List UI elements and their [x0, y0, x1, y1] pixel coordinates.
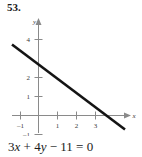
y-tick-label-neg1: –1 [22, 131, 31, 136]
y-tick-label-1: 1 [27, 93, 31, 101]
equation-equals-sign: = [76, 139, 83, 154]
equation-operator-plus: + [24, 139, 31, 154]
x-tick-label-3: 3 [94, 122, 98, 130]
x-axis-arrow-icon [124, 113, 131, 119]
plotted-line [12, 45, 125, 130]
y-axis-arrow-icon [36, 18, 42, 25]
equation-caption: 3x + 4y − 11 = 0 [8, 138, 142, 155]
x-axis-label: x [131, 112, 136, 120]
x-tick-label-1: 1 [56, 122, 60, 130]
equation-term-11: 11 [60, 139, 73, 154]
plot-svg: –1 1 2 3 1 2 4 –1 x y [0, 16, 142, 136]
equation-operator-minus: − [50, 139, 57, 154]
y-tick-label-2: 2 [27, 74, 31, 82]
x-tick-label-neg1: –1 [16, 122, 25, 130]
figure-container: 53. –1 1 2 3 1 [0, 0, 142, 157]
coordinate-plot: –1 1 2 3 1 2 4 –1 x y [0, 16, 142, 136]
equation-rhs-zero: 0 [87, 139, 94, 154]
equation-var-y: y [41, 139, 47, 154]
y-tick-label-4: 4 [27, 36, 31, 44]
x-tick-label-2: 2 [75, 122, 79, 130]
problem-number: 53. [7, 1, 21, 14]
equation-var-x: x [15, 139, 21, 154]
